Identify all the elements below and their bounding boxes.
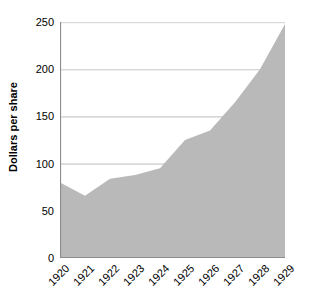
y-axis-tick-label: 0 xyxy=(0,258,54,270)
y-axis-tick-label: 200 xyxy=(0,69,54,81)
y-axis-tick-label: 50 xyxy=(0,211,54,223)
y-axis-tick-label: 250 xyxy=(0,22,54,34)
area-series-dollars-per-share xyxy=(60,24,285,258)
plot-area xyxy=(60,22,285,258)
y-axis-tick-label: 150 xyxy=(0,116,54,128)
x-axis-tick-label: 1929 xyxy=(288,245,309,271)
y-axis-tick-label: 100 xyxy=(0,164,54,176)
plot-svg xyxy=(60,22,285,258)
area-chart: Dollars per share 050100150200250 192019… xyxy=(0,0,309,304)
